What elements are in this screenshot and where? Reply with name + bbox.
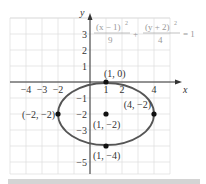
eq-plus: + xyxy=(133,29,138,39)
x-axis-label: x xyxy=(182,84,188,95)
eq-den1: 9 xyxy=(108,35,113,45)
y-tick-label: −5 xyxy=(76,157,87,168)
point-marker xyxy=(55,111,60,116)
point-label: (−2, −2) xyxy=(22,109,55,121)
x-tick-label: −3 xyxy=(37,84,48,95)
ellipse-graph: x y −4−3−2124321−1−2−3−5 (1, 0)(−2, −2)(… xyxy=(0,0,206,184)
y-tick-label: 2 xyxy=(82,45,87,56)
eq-rhs: = 1 xyxy=(183,29,195,39)
y-tick-label: 1 xyxy=(82,61,87,72)
y-axis-arrow-icon xyxy=(88,13,93,20)
y-tick-label: −1 xyxy=(76,93,87,104)
point-marker xyxy=(103,79,108,84)
eq-num1: (x − 1) xyxy=(96,22,121,32)
point-marker xyxy=(151,111,156,116)
equation: (x − 1) 2 9 + (y + 2) 2 4 = 1 xyxy=(94,20,195,45)
point-label: (1, −2) xyxy=(93,119,120,131)
eq-den2: 4 xyxy=(158,35,163,45)
x-tick-label: −4 xyxy=(21,84,32,95)
bottom-divider xyxy=(8,179,200,184)
eq-exp2: 2 xyxy=(174,20,177,26)
x-tick-label: 1 xyxy=(104,84,109,95)
eq-exp1: 2 xyxy=(125,20,128,26)
eq-num2: (y + 2) xyxy=(145,22,170,32)
x-tick-label: −2 xyxy=(53,84,64,95)
point-label: (1, −4) xyxy=(93,150,120,162)
y-axis-label: y xyxy=(79,7,85,18)
point-label: (1, 0) xyxy=(104,68,126,80)
point-label: (4, −2) xyxy=(124,99,151,111)
y-tick-label: −2 xyxy=(76,109,87,120)
x-axis-arrow-icon xyxy=(175,80,182,85)
y-tick-label: 3 xyxy=(82,29,87,40)
point-marker xyxy=(103,143,108,148)
y-tick-label: −3 xyxy=(76,125,87,136)
point-marker xyxy=(103,111,108,116)
x-tick-label: 4 xyxy=(152,84,157,95)
